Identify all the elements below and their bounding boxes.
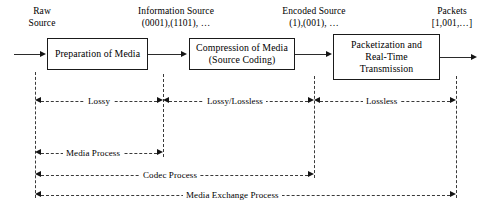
guide-line-information-source: [163, 74, 164, 157]
flow-arrow-shaft: [440, 57, 472, 58]
signal-label-raw-source: Raw Source: [14, 6, 70, 29]
arrow-head-left-icon: [35, 191, 41, 197]
measure-label: Lossless: [363, 95, 400, 107]
signal-label-line2: Source: [14, 18, 70, 30]
arrow-head-right-icon: [450, 191, 456, 197]
measure-label: Media Exchange Process: [183, 189, 282, 201]
arrow-head-icon: [40, 51, 46, 57]
process-box-line1: Compression of Media: [196, 42, 288, 54]
arrow-head-icon: [181, 51, 187, 57]
signal-label-line1: Encoded Source: [262, 6, 366, 18]
process-box-compression-of-media[interactable]: Compression of Media (Source Coding): [189, 38, 295, 70]
measure-label: Codec Process: [140, 169, 200, 181]
process-box-packetization-and-real-time-transmission[interactable]: Packetization and Real-Time Transmission: [333, 34, 440, 80]
flow-arrow-shaft: [148, 54, 182, 55]
measure-codec-process: Codec Process: [35, 169, 314, 181]
process-box-line2: Real-Time: [351, 51, 422, 63]
arrow-head-left-icon: [35, 171, 41, 177]
arrow-head-left-icon: [35, 149, 41, 155]
guide-line-encoded-source: [314, 76, 315, 178]
flow-arrow-shaft: [14, 54, 41, 55]
measure-media-exchange-process: Media Exchange Process: [35, 189, 456, 201]
signal-label-line2: (1),(001), …: [262, 18, 366, 30]
guide-line-packets: [456, 76, 457, 198]
arrow-head-icon: [471, 54, 477, 60]
flow-arrow-shaft: [295, 54, 327, 55]
signal-label-packets: Packets [1,001,…]: [416, 6, 488, 29]
signal-label-line1: Information Source: [112, 6, 240, 18]
process-box-line1: Preparation of Media: [55, 48, 140, 60]
signal-label-encoded-source: Encoded Source (1),(001), …: [262, 6, 366, 29]
arrow-head-right-icon: [308, 97, 314, 103]
process-box-line2: (Source Coding): [196, 54, 288, 66]
arrow-head-right-icon: [157, 149, 163, 155]
measure-lossless: Lossless: [314, 95, 456, 107]
process-box-preparation-of-media[interactable]: Preparation of Media: [47, 38, 148, 70]
arrow-head-right-icon: [450, 97, 456, 103]
arrow-head-left-icon: [35, 97, 41, 103]
signal-label-line2: (0001),(1101), …: [112, 18, 240, 30]
measure-label: Lossy/Lossless: [204, 95, 266, 107]
arrow-head-right-icon: [157, 97, 163, 103]
process-box-line1: Packetization and: [351, 39, 422, 51]
measure-lossy: Lossy: [35, 95, 163, 107]
measure-label: Lossy: [85, 95, 113, 107]
signal-label-line1: Packets: [416, 6, 488, 18]
arrow-head-left-icon: [163, 97, 169, 103]
process-box-line3: Transmission: [351, 63, 422, 75]
measure-media-process: Media Process: [35, 147, 163, 159]
signal-label-line2: [1,001,…]: [416, 18, 488, 30]
figure-canvas: Raw Source Information Source (0001),(11…: [0, 0, 490, 211]
arrow-head-right-icon: [308, 171, 314, 177]
signal-label-line1: Raw: [14, 6, 70, 18]
arrow-head-left-icon: [314, 97, 320, 103]
measure-label: Media Process: [63, 147, 123, 159]
measure-lossy-lossless: Lossy/Lossless: [163, 95, 314, 107]
arrow-head-icon: [326, 51, 332, 57]
signal-label-information-source: Information Source (0001),(1101), …: [112, 6, 240, 29]
